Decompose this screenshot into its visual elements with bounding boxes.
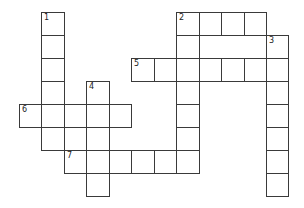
crossword-cell[interactable] (266, 104, 289, 128)
crossword-cell[interactable] (176, 127, 200, 151)
crossword-cell[interactable] (41, 104, 65, 128)
crossword-cell[interactable]: 5 (131, 58, 155, 82)
crossword-cell[interactable] (86, 127, 110, 151)
crossword-cell[interactable] (176, 35, 200, 59)
crossword-cell[interactable] (109, 104, 132, 128)
clue-number: 6 (22, 105, 27, 115)
clue-number: 2 (179, 13, 184, 23)
crossword-cell[interactable] (221, 12, 245, 36)
crossword-cell[interactable] (109, 150, 132, 174)
crossword-cell[interactable] (41, 81, 65, 105)
crossword-cell[interactable] (86, 150, 110, 174)
crossword-cell[interactable] (266, 81, 289, 105)
clue-number: 1 (44, 13, 49, 23)
crossword-cell[interactable] (199, 12, 222, 36)
crossword-cell[interactable] (154, 58, 177, 82)
crossword-cell[interactable] (64, 104, 87, 128)
crossword-cell[interactable] (176, 81, 200, 105)
crossword-cell[interactable]: 2 (176, 12, 200, 36)
crossword-cell[interactable] (199, 58, 222, 82)
crossword-cell[interactable] (41, 127, 65, 151)
clue-number: 7 (67, 151, 72, 161)
crossword-cell[interactable] (244, 12, 267, 36)
crossword-cell[interactable] (244, 58, 267, 82)
crossword-cell[interactable] (86, 173, 110, 197)
crossword-grid: 1234567 (0, 0, 304, 208)
clue-number: 4 (89, 82, 94, 92)
crossword-cell[interactable] (176, 58, 200, 82)
clue-number: 5 (134, 59, 139, 69)
crossword-cell[interactable]: 6 (19, 104, 42, 128)
crossword-cell[interactable] (266, 58, 289, 82)
crossword-cell[interactable]: 1 (41, 12, 65, 36)
crossword-cell[interactable]: 3 (266, 35, 289, 59)
crossword-cell[interactable] (221, 58, 245, 82)
crossword-cell[interactable] (154, 150, 177, 174)
crossword-cell[interactable] (131, 150, 155, 174)
crossword-cell[interactable] (41, 35, 65, 59)
crossword-cell[interactable] (266, 150, 289, 174)
crossword-cell[interactable] (266, 173, 289, 197)
clue-number: 3 (269, 36, 274, 46)
crossword-cell[interactable]: 4 (86, 81, 110, 105)
crossword-cell[interactable] (86, 104, 110, 128)
crossword-cell[interactable] (266, 127, 289, 151)
crossword-cell[interactable] (41, 58, 65, 82)
crossword-cell[interactable] (176, 104, 200, 128)
crossword-cell[interactable]: 7 (64, 150, 87, 174)
crossword-cell[interactable] (176, 150, 200, 174)
